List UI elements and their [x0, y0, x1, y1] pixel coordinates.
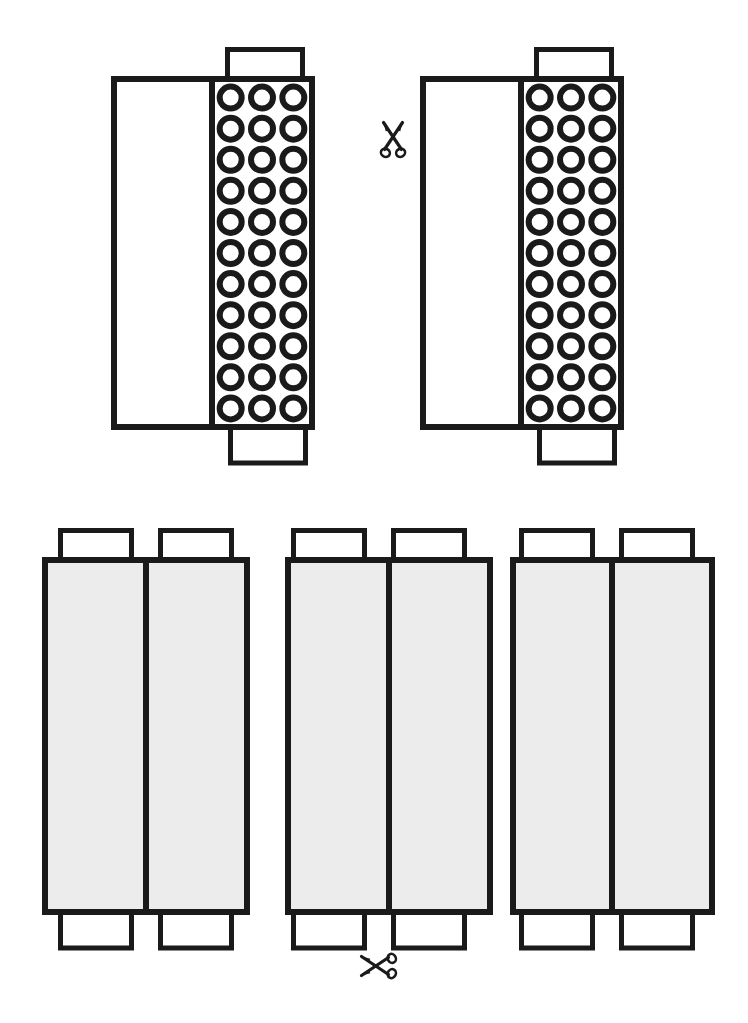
ring-hole: [529, 180, 551, 202]
ring-hole: [251, 273, 273, 295]
ring-hole: [560, 149, 582, 171]
ring-hole: [560, 180, 582, 202]
ring-hole: [282, 335, 304, 357]
ring-hole: [529, 211, 551, 233]
ring-hole: [220, 242, 242, 264]
ring-hole: [591, 397, 613, 419]
bottom-row-group: [45, 531, 712, 949]
perforated-card-right: [423, 50, 621, 464]
ring-hole: [220, 397, 242, 419]
ring-hole: [251, 211, 273, 233]
ring-hole: [220, 273, 242, 295]
ring-hole: [591, 242, 613, 264]
ring-hole: [591, 118, 613, 140]
ring-hole: [251, 335, 273, 357]
ring-hole: [251, 87, 273, 109]
ring-hole: [560, 366, 582, 388]
ring-hole: [560, 273, 582, 295]
ring-hole: [251, 366, 273, 388]
ring-hole: [251, 242, 273, 264]
ring-hole: [591, 335, 613, 357]
ring-hole: [591, 366, 613, 388]
ring-hole: [560, 211, 582, 233]
ring-hole: [220, 211, 242, 233]
ring-hole: [591, 273, 613, 295]
ring-hole: [529, 397, 551, 419]
grey-double-panel-middle: [288, 531, 490, 949]
ring-hole: [282, 304, 304, 326]
card-ring-grid-panel: [529, 87, 614, 420]
ring-hole: [529, 87, 551, 109]
ring-hole: [529, 118, 551, 140]
ring-hole: [560, 118, 582, 140]
perforated-card-left: [114, 50, 312, 464]
ring-hole: [282, 273, 304, 295]
ring-hole: [251, 118, 273, 140]
ring-hole: [251, 397, 273, 419]
grey-double-panel-right: [513, 531, 712, 949]
ring-hole: [529, 273, 551, 295]
ring-hole: [591, 211, 613, 233]
ring-hole: [529, 335, 551, 357]
ring-hole: [591, 87, 613, 109]
ring-hole: [560, 87, 582, 109]
ring-hole: [591, 180, 613, 202]
ring-hole: [251, 149, 273, 171]
ring-hole: [282, 211, 304, 233]
ring-hole: [560, 335, 582, 357]
ring-hole: [282, 149, 304, 171]
ring-hole: [560, 304, 582, 326]
ring-hole: [529, 304, 551, 326]
card-ring-grid-panel: [220, 87, 305, 420]
ring-hole: [220, 180, 242, 202]
ring-hole: [591, 304, 613, 326]
ring-hole: [282, 180, 304, 202]
ring-hole: [529, 149, 551, 171]
grey-double-panel-left: [45, 531, 247, 949]
ring-hole: [282, 118, 304, 140]
ring-hole: [220, 118, 242, 140]
ring-hole: [591, 149, 613, 171]
ring-hole: [282, 242, 304, 264]
ring-hole: [251, 304, 273, 326]
ring-hole: [560, 397, 582, 419]
ring-hole: [282, 87, 304, 109]
template-sheet: Cut-out craft template sheet Two identic…: [0, 0, 748, 1023]
ring-hole: [220, 149, 242, 171]
ring-hole: [251, 180, 273, 202]
ring-hole: [282, 366, 304, 388]
ring-hole: [560, 242, 582, 264]
template-artwork: [0, 0, 748, 1023]
ring-hole: [220, 366, 242, 388]
ring-hole: [529, 366, 551, 388]
ring-hole: [282, 397, 304, 419]
ring-hole: [529, 242, 551, 264]
ring-hole: [220, 335, 242, 357]
ring-hole: [220, 304, 242, 326]
ring-hole: [220, 87, 242, 109]
